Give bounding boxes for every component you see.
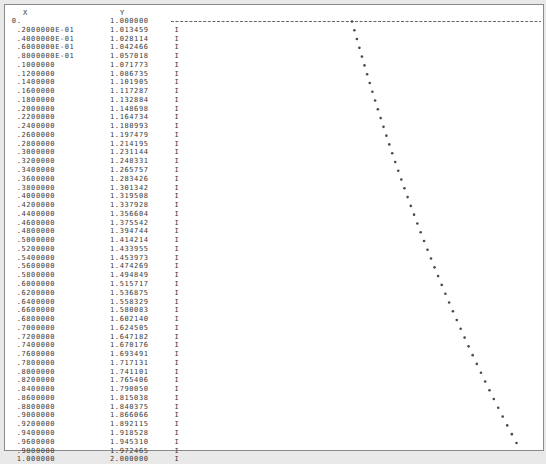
- data-point: [394, 161, 397, 164]
- data-point: [382, 126, 385, 129]
- data-point: [484, 380, 487, 383]
- data-point: [433, 266, 436, 269]
- y-value: 2.000000: [110, 455, 180, 464]
- data-point: [379, 117, 382, 120]
- data-point: [448, 301, 451, 304]
- data-point: [385, 134, 388, 137]
- x-value: 1.000000: [7, 455, 102, 464]
- data-point: [437, 275, 440, 278]
- printout-page: X Y 0. .2000000E-01 .4000000E-01 .600000…: [4, 4, 544, 451]
- scatter-plot: [5, 5, 543, 450]
- data-point: [403, 187, 406, 190]
- data-point: [366, 73, 369, 76]
- axis-marker: I: [172, 455, 182, 464]
- data-point: [501, 415, 504, 418]
- data-point: [377, 108, 380, 111]
- data-point: [455, 319, 458, 322]
- data-point: [467, 345, 470, 348]
- data-point: [471, 354, 474, 357]
- data-point: [515, 442, 518, 445]
- data-point: [480, 371, 483, 374]
- data-point: [430, 257, 433, 260]
- data-point: [397, 169, 400, 172]
- data-point: [374, 99, 377, 102]
- data-point: [353, 29, 356, 32]
- data-point: [351, 20, 354, 23]
- data-point: [423, 240, 426, 243]
- data-point: [419, 231, 422, 234]
- data-point: [391, 152, 394, 155]
- data-point: [440, 284, 443, 287]
- data-point: [406, 196, 409, 199]
- data-point: [444, 292, 447, 295]
- data-point: [426, 248, 429, 251]
- data-point: [497, 407, 500, 410]
- data-point: [409, 205, 412, 208]
- data-point: [400, 178, 403, 181]
- data-point: [493, 398, 496, 401]
- data-point: [475, 363, 478, 366]
- data-point: [363, 64, 366, 67]
- data-point: [506, 424, 509, 427]
- data-point: [463, 336, 466, 339]
- data-point: [511, 433, 514, 436]
- data-point: [388, 143, 391, 146]
- data-point: [371, 90, 374, 93]
- data-point: [368, 82, 371, 85]
- data-point: [488, 389, 491, 392]
- data-point: [358, 47, 361, 50]
- data-point: [356, 38, 359, 41]
- data-point: [413, 213, 416, 216]
- data-point: [416, 222, 419, 225]
- data-point: [361, 55, 364, 58]
- data-point: [452, 310, 455, 313]
- data-point: [459, 328, 462, 331]
